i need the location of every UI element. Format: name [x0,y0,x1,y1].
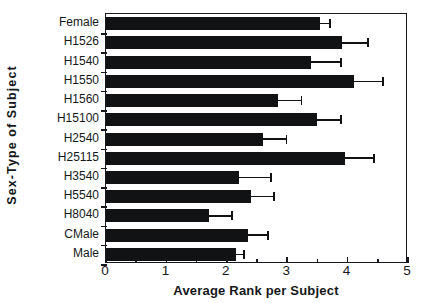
y-axis-tick [101,52,107,54]
y-axis-tick-label: H8040 [64,208,99,220]
bar [106,248,236,261]
y-axis-tick [101,149,107,151]
y-axis-tick-label: H1540 [64,55,99,67]
x-axis-tick-label: 1 [162,264,170,278]
bar-row [106,75,408,88]
y-axis-tick-label: Male [73,247,99,259]
bar-row [106,209,408,222]
chart-figure: Sex-Type of Subject FemaleH1526H1540H155… [0,0,422,303]
error-bar-line [209,215,233,217]
plot-inner [106,14,406,262]
x-axis-tick-label: 4 [343,264,351,278]
bar [106,36,342,49]
error-bar-line [342,42,369,44]
error-bar-cap [286,135,288,144]
x-axis-minor-tick [135,259,137,263]
plot-area [105,13,407,263]
y-axis-tick [101,226,107,228]
x-axis-tick-labels: 012345 [105,264,407,282]
y-axis-tick-label: H1526 [64,35,99,47]
y-axis-tick [101,168,107,170]
error-bar-cap [367,38,369,47]
error-bar-cap [340,115,342,124]
error-bar-cap [270,173,272,182]
error-bar-line [345,157,375,159]
y-axis-tick-label: H15100 [57,112,99,124]
x-axis-minor-tick [317,259,319,263]
y-axis-title-container: Sex-Type of Subject [0,0,24,270]
x-axis-minor-tick [377,259,379,263]
y-axis-tick-label: H5540 [64,189,99,201]
error-bar-cap [231,211,233,220]
bar [106,56,311,69]
bar [106,75,354,88]
error-bar-cap [373,154,375,163]
x-axis-tick-label: 2 [222,264,230,278]
bar [106,190,251,203]
error-bar-cap [273,192,275,201]
bar-row [106,17,408,30]
y-axis-tick-label: CMale [64,228,99,240]
bar-row [106,56,408,69]
bar-row [106,171,408,184]
y-axis-tick [101,129,107,131]
bar [106,17,320,30]
y-axis-tick [101,206,107,208]
y-axis-title: Sex-Type of Subject [5,65,19,204]
bar-row [106,190,408,203]
bar [106,152,345,165]
y-axis-tick [101,110,107,112]
error-bar-cap [301,96,303,105]
bar-row [106,113,408,126]
bar [106,94,278,107]
y-axis-tick [101,72,107,74]
error-bar-cap [340,58,342,67]
y-axis-tick [101,245,107,247]
y-axis-tick [101,187,107,189]
y-axis-tick-label: Female [59,16,99,28]
error-bar-line [354,81,384,83]
bar [106,229,248,242]
error-bar-line [239,177,272,179]
error-bar-line [263,138,287,140]
bar [106,113,317,126]
bar-row [106,133,408,146]
bar [106,133,263,146]
x-axis-tick-label: 3 [282,264,290,278]
error-bar-cap [243,250,245,259]
error-bar-line [278,100,302,102]
error-bar-line [248,234,269,236]
y-axis-tick-labels: FemaleH1526H1540H1550H1560H15100H2540H25… [24,13,102,263]
bar-row [106,152,408,165]
error-bar-line [251,196,275,198]
error-bar-cap [267,231,269,240]
x-axis-minor-tick [196,259,198,263]
y-axis-tick-label: H1560 [64,93,99,105]
x-axis-tick-label: 0 [101,264,109,278]
bar-row [106,94,408,107]
y-axis-tick-label: H2540 [64,132,99,144]
error-bar-line [311,61,341,63]
y-axis-tick [101,91,107,93]
x-axis-tick-label: 5 [403,264,411,278]
y-axis-tick-label: H1550 [64,74,99,86]
bar [106,171,239,184]
bar-row [106,229,408,242]
error-bar-line [317,119,341,121]
error-bar-cap [329,19,331,28]
bar [106,209,209,222]
x-axis-title: Average Rank per Subject [105,283,407,298]
error-bar-cap [382,77,384,86]
bar-row [106,36,408,49]
y-axis-tick-label: H3540 [64,170,99,182]
y-axis-tick [101,33,107,35]
x-axis-minor-tick [256,259,258,263]
y-axis-tick-label: H25115 [58,151,99,163]
